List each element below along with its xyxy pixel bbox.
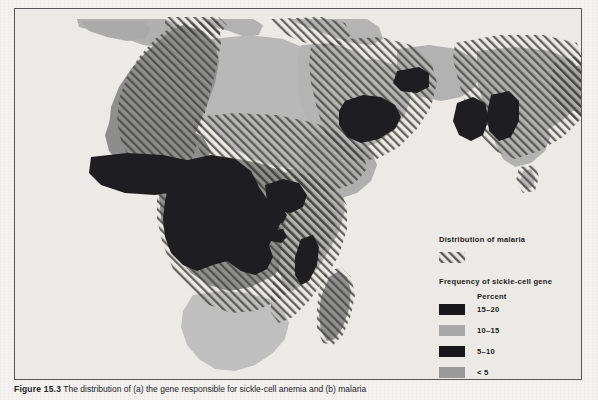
mid-gray-swatch	[439, 325, 465, 336]
legend-row-10-15: 10–15	[439, 325, 582, 336]
figure-caption-label: Figure 15.3	[14, 384, 61, 394]
black-swatch-2	[439, 346, 465, 357]
legend-label-under-5: < 5	[477, 368, 489, 377]
diagonal-hatch-swatch	[439, 252, 465, 263]
legend-row-5-10: 5–10	[439, 346, 582, 357]
figure-frame: Distribution of malaria Frequency of sic…	[14, 8, 582, 380]
legend-sickle-heading: Frequency of sickle-cell gene	[439, 277, 582, 286]
figure-caption-text: The distribution of (a) the gene respons…	[63, 384, 366, 394]
gray-swatch	[439, 367, 465, 378]
map-legend: Distribution of malaria Frequency of sic…	[439, 235, 582, 380]
legend-label-15-20: 15–20	[477, 305, 499, 314]
legend-malaria-swatch-row	[439, 248, 582, 266]
figure-caption: Figure 15.3 The distribution of (a) the …	[14, 384, 582, 395]
legend-label-10-15: 10–15	[477, 326, 499, 335]
legend-label-5-10: 5–10	[477, 347, 495, 356]
legend-percent-label: Percent	[477, 292, 582, 301]
black-swatch	[439, 304, 465, 315]
legend-row-under-5: < 5	[439, 367, 582, 378]
legend-row-15-20: 15–20	[439, 304, 582, 315]
legend-malaria-heading: Distribution of malaria	[439, 235, 582, 244]
